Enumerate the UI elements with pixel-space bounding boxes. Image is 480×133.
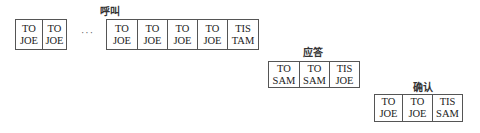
cell-line2: TAM xyxy=(232,35,255,47)
cell-line1: TO xyxy=(308,63,322,75)
cell-line2: JOE xyxy=(379,108,397,120)
frame-cell: TO SAM xyxy=(300,62,330,87)
cell-line2: JOE xyxy=(173,35,191,47)
cell-line2: JOE xyxy=(335,75,353,87)
cell-line2: JOE xyxy=(45,35,63,47)
frame-group-answer: TO SAM TO SAM TIS JOE xyxy=(268,61,360,88)
cell-line1: TIS xyxy=(337,63,353,75)
frame-cell: TO JOE xyxy=(107,20,138,49)
cell-line2: JOE xyxy=(20,35,38,47)
frame-group-call: TO JOE TO JOE TO JOE TO JOE TIS TAM xyxy=(106,19,259,50)
frame-cell: TO JOE xyxy=(43,20,66,49)
cell-line1: TO xyxy=(48,23,62,35)
label-answer: 应答 xyxy=(303,44,323,59)
label-call: 呼叫 xyxy=(100,3,120,18)
cell-line2: JOE xyxy=(408,108,426,120)
cell-line1: TO xyxy=(382,96,396,108)
cell-line1: TO xyxy=(176,23,190,35)
cell-line1: TO xyxy=(22,23,36,35)
frame-cell: TO JOE xyxy=(168,20,198,49)
frame-cell: TO JOE xyxy=(198,20,228,49)
cell-line1: TO xyxy=(411,96,425,108)
frame-cell: TO JOE xyxy=(138,20,168,49)
cell-line2: JOE xyxy=(113,35,131,47)
cell-line1: TO xyxy=(206,23,220,35)
cell-line2: JOE xyxy=(203,35,221,47)
label-confirm: 确认 xyxy=(413,79,433,94)
cell-line1: TIS xyxy=(440,96,456,108)
frame-cell: TIS SAM xyxy=(433,95,462,121)
cell-line1: TO xyxy=(277,63,291,75)
cell-line1: TO xyxy=(115,23,129,35)
cell-line1: TIS xyxy=(235,23,251,35)
frame-cell: TO JOE xyxy=(16,20,43,49)
cell-line2: SAM xyxy=(303,75,326,87)
cell-line2: JOE xyxy=(143,35,161,47)
cell-line2: SAM xyxy=(273,75,296,87)
frame-cell: TIS TAM xyxy=(228,20,258,49)
frame-cell: TO JOE xyxy=(403,95,433,121)
cell-line1: TO xyxy=(146,23,160,35)
frame-group-preamble: TO JOE TO JOE xyxy=(15,19,67,50)
frame-group-confirm: TO JOE TO JOE TIS SAM xyxy=(374,94,463,122)
ellipsis: ··· xyxy=(81,27,94,38)
frame-cell: TIS JOE xyxy=(330,62,359,87)
cell-line2: SAM xyxy=(436,108,459,120)
frame-cell: TO JOE xyxy=(375,95,403,121)
frame-cell: TO SAM xyxy=(269,62,300,87)
